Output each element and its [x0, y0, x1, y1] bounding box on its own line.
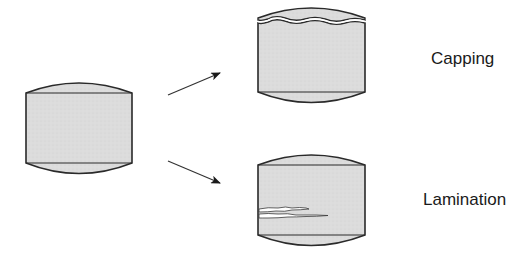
tablet-defects-diagram [0, 0, 527, 263]
laminated-tablet [258, 155, 365, 246]
original-tablet [26, 83, 132, 174]
capped-tablet [258, 8, 365, 103]
capping-label: Capping [431, 49, 494, 69]
lamination-label: Lamination [423, 190, 506, 210]
arrow-to-lamination [168, 161, 220, 183]
arrow-to-capping [168, 73, 220, 95]
